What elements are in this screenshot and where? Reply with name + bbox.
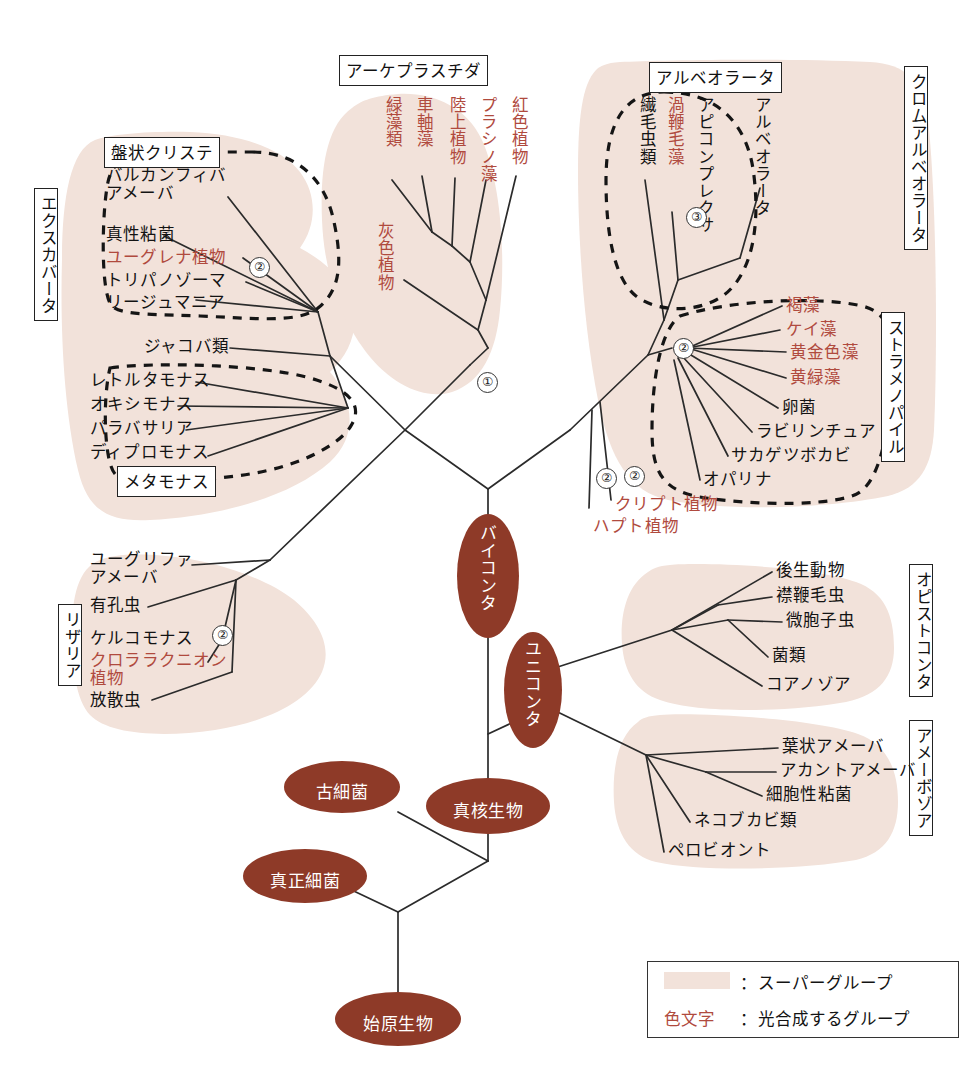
phylogenetic-tree-diagram: エクスカバータ アーケプラスチダ クロムアルベオラータ リザリア オピストコンタ… <box>0 0 975 1081</box>
subgroup-label-stramenopiles: ストラメノパイル <box>881 312 905 462</box>
taxon-euglenophyte: ユーグレナ植物 <box>106 249 226 266</box>
taxon-dinoflagellate: 渦鞭毛藻 <box>665 96 682 165</box>
taxon-valkampfia-amoeba: バルカンフィバ アメーバ <box>106 167 226 204</box>
taxon-retortamonas: レトルタモナス <box>90 372 210 389</box>
taxon-leishmania: リージュマニア <box>106 294 225 311</box>
taxon-labyrinthulid: ラビリンチュア <box>756 423 876 440</box>
taxon-plasmodiophorid: ネコブカビ類 <box>694 812 797 829</box>
supergroup-label-excavata: エクスカバータ <box>34 188 58 321</box>
taxon-ciliate: 繊毛虫類 <box>637 96 654 165</box>
taxon-brown-algae: 褐藻 <box>786 297 820 314</box>
legend-sep-1: ： <box>740 970 757 994</box>
branch-bikonta-to-right <box>488 430 570 489</box>
taxon-diatom: ケイ藻 <box>786 321 838 338</box>
branch-root-upper <box>398 861 488 912</box>
marker-1: ① <box>477 372 498 393</box>
taxon-parabasalia: パラバサリア <box>90 420 193 437</box>
taxon-land-plants: 陸上植物 <box>447 96 464 165</box>
branch-root-bacteria <box>320 875 398 912</box>
marker-2-haptophyte: ② <box>596 468 617 489</box>
taxon-chrysophyte: 黄金色藻 <box>790 344 859 361</box>
taxon-cryptophyte: クリプト植物 <box>615 496 718 513</box>
taxon-myxomycete: 真性粘菌 <box>106 226 175 243</box>
taxon-fungi: 菌類 <box>772 647 806 664</box>
taxon-jakobid: ジャコバ類 <box>144 338 229 355</box>
subgroup-label-metamonada: メタモナス <box>117 466 216 497</box>
taxon-chlorarachniophyte: クロララクニオン 植物 <box>90 652 228 689</box>
subgroup-label-alveolata: アルベオラータ <box>649 62 782 93</box>
taxon-cercomonas: ケルコモナス <box>90 630 193 647</box>
taxon-glaucophyte: 灰色植物 <box>375 222 392 291</box>
taxon-lobose-amoeba: 葉状アメーバ <box>782 738 884 755</box>
taxon-alveolata-vertical: アルベオラータ <box>752 96 769 216</box>
branch-eukaryote-unikonta <box>488 713 533 734</box>
marker-2-rhizaria: ② <box>212 625 233 646</box>
taxon-euglypha-amoeba: ユーグリファ アメーバ <box>90 551 193 588</box>
subgroup-label-discicristata: 盤状クリステ <box>104 137 220 168</box>
branch-rz-hub <box>236 560 270 580</box>
marker-2-excavata: ② <box>249 257 270 278</box>
taxon-foraminifera: 有孔虫 <box>90 597 142 614</box>
taxon-pelobiont: ペロビオント <box>668 842 771 859</box>
taxon-cellular-slime-mold: 細胞性粘菌 <box>766 786 852 803</box>
blob-opisthokonta <box>622 564 894 710</box>
marker-2-stramenopiles: ② <box>673 338 694 359</box>
taxon-diplomonad: ディプロモナス <box>90 444 209 461</box>
taxon-hyphochytrid: サカゲツボカビ <box>731 447 851 464</box>
taxon-oxymonas: オキシモナス <box>90 396 193 413</box>
taxon-xanthophyte: 黄緑藻 <box>790 369 842 386</box>
taxon-rhodophyte: 紅色植物 <box>509 96 526 165</box>
legend-row-photosynthetic: 色文字 ： 光合成するグループ <box>648 999 958 1035</box>
taxon-radiolaria: 放散虫 <box>90 692 142 709</box>
supergroup-label-opisthokonta: オピストコンタ <box>909 564 933 697</box>
legend-sep-2: ： <box>740 1006 757 1030</box>
legend: ： スーパーグループ 色文字 ： 光合成するグループ <box>647 961 959 1038</box>
taxon-green-algae: 緑藻類 <box>383 96 400 148</box>
branch-to-haptophyte <box>589 410 592 508</box>
marker-2-cryptophyte: ② <box>624 466 645 487</box>
branch-upper-archaea <box>398 812 488 861</box>
taxon-microsporidia: 微胞子虫 <box>786 612 855 629</box>
taxon-trypanosoma: トリパノゾーマ <box>106 272 226 289</box>
taxon-charophyte: 車軸藻 <box>414 96 431 148</box>
branch-bikonta-to-left <box>405 430 488 489</box>
taxon-oomycete: 卵菌 <box>782 399 816 416</box>
legend-swatch-supergroup <box>664 972 730 989</box>
branch-am-stem <box>533 700 646 755</box>
supergroup-label-archaeplastida: アーケプラスチダ <box>339 55 488 86</box>
legend-row-supergroup: ： スーパーグループ <box>648 962 958 998</box>
blob-archaeplastida <box>322 94 503 394</box>
legend-key-colored-text: 色文字 <box>664 1006 715 1030</box>
taxon-acanthamoeba: アカントアメーバ <box>780 762 917 779</box>
legend-text-supergroup: スーパーグループ <box>758 970 893 994</box>
taxon-opalinid: オパリナ <box>703 471 772 488</box>
legend-text-photosynthetic: 光合成するグループ <box>758 1006 910 1030</box>
taxon-choanozoa: コアノゾア <box>766 676 851 693</box>
taxon-choanoflagellate: 襟鞭毛虫 <box>776 587 845 604</box>
marker-3-alveolata: ③ <box>686 207 707 228</box>
supergroup-label-rhizaria: リザリア <box>58 604 82 686</box>
taxon-prasinophyte: プラシノ藻 <box>478 96 495 182</box>
supergroup-label-chromalveolata: クロムアルベオラータ <box>904 66 928 250</box>
taxon-metazoa: 後生動物 <box>776 562 845 579</box>
taxon-haptophyte: ハプト植物 <box>593 518 679 535</box>
